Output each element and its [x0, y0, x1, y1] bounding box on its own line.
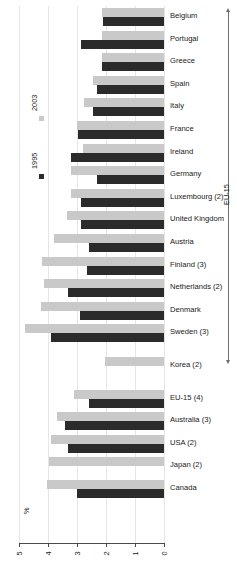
x-axis-line [19, 543, 165, 544]
bar-1995 [87, 266, 164, 275]
legend-label-2003: 2003 [30, 95, 39, 111]
category-label: Italy [170, 101, 184, 110]
bar-row: Canada [0, 480, 237, 503]
bar-row: Korea (2) [0, 357, 237, 380]
bar-2003 [49, 457, 164, 466]
category-label: Germany [170, 169, 201, 178]
bar-2003 [44, 279, 164, 288]
legend-item-1995: 1995 [30, 136, 54, 182]
bar-1995 [103, 17, 164, 26]
bar-1995 [97, 85, 164, 94]
bar-row: USA (2) [0, 435, 237, 458]
category-label: Spain [170, 79, 189, 88]
bar-1995 [81, 40, 164, 49]
category-label: Finland (3) [170, 260, 206, 269]
bar-1995 [68, 444, 164, 453]
bar-1995 [71, 153, 164, 162]
bar-row: Japan (2) [0, 457, 237, 480]
bar-2003 [67, 211, 164, 220]
bar-2003 [42, 257, 164, 266]
chart-figure: BelgiumPortugalGreeceSpainItalyFranceIre… [0, 0, 237, 572]
bar-row: Australia (3) [0, 412, 237, 435]
eu15-bracket-arrow-bottom [226, 360, 230, 364]
legend-swatch-2003 [39, 116, 44, 121]
category-label: Austria [170, 237, 194, 246]
category-label: Korea (2) [170, 360, 202, 369]
category-label: Australia (3) [170, 415, 211, 424]
category-label: Netherlands (2) [170, 282, 222, 291]
bar-row: Portugal [0, 31, 237, 54]
bar-2003 [84, 98, 164, 107]
bar-2003 [71, 166, 164, 175]
category-label: USA (2) [170, 438, 197, 447]
legend-swatch-1995 [39, 174, 44, 179]
category-label: United Kingdom [170, 214, 224, 223]
bar-2003 [93, 76, 164, 85]
x-tick-label-0: 0 [160, 544, 169, 564]
bar-row: Greece [0, 53, 237, 76]
bar-1995 [97, 175, 164, 184]
bar-2003 [77, 121, 164, 130]
category-label: Luxembourg (2) [170, 192, 224, 201]
chart-legend: 2003 1995 [30, 78, 54, 188]
bar-1995 [80, 311, 164, 320]
bar-1995 [81, 198, 164, 207]
x-tick-label-2: 2 [102, 544, 111, 564]
category-label: Japan (2) [170, 460, 202, 469]
bar-1995 [81, 220, 164, 229]
bar-row: Luxembourg (2) [0, 189, 237, 212]
category-label: EU-15 (4) [170, 393, 203, 402]
bar-2003 [102, 31, 164, 40]
bar-1995 [51, 333, 164, 342]
bar-row: Austria [0, 234, 237, 257]
bar-2003 [57, 412, 164, 421]
bar-2003 [54, 234, 164, 243]
bar-row: EU-15 (4) [0, 390, 237, 413]
legend-item-2003: 2003 [30, 78, 54, 124]
bar-1995 [65, 421, 164, 430]
axis-unit-label: % [22, 507, 31, 514]
bar-row: Belgium [0, 8, 237, 31]
category-label: Denmark [170, 305, 201, 314]
bar-2003 [41, 302, 164, 311]
bar-2003 [47, 480, 164, 489]
eu15-bracket-arrow-top [226, 8, 230, 12]
x-tick-label-5: 5 [15, 544, 24, 564]
bar-2003 [25, 324, 164, 333]
category-label: Greece [170, 56, 195, 65]
bar-1995 [78, 130, 164, 139]
eu15-bracket-label: EU-15 [222, 184, 231, 205]
bar-row: Denmark [0, 302, 237, 325]
x-tick-label-3: 3 [73, 544, 82, 564]
plot-area: BelgiumPortugalGreeceSpainItalyFranceIre… [0, 0, 237, 572]
category-label: Ireland [170, 147, 193, 156]
bar-1995 [89, 399, 164, 408]
bar-row: Netherlands (2) [0, 279, 237, 302]
category-label: Belgium [170, 11, 197, 20]
bar-row: United Kingdom [0, 211, 237, 234]
bar-1995 [93, 107, 164, 116]
bar-1995 [77, 489, 164, 498]
bar-row: Sweden (3) [0, 324, 237, 347]
x-tick-label-1: 1 [131, 544, 140, 564]
category-label: France [170, 124, 194, 133]
category-label: Canada [170, 483, 197, 492]
bar-2003 [102, 53, 164, 62]
bar-2003 [83, 144, 164, 153]
bar-row: Finland (3) [0, 257, 237, 280]
category-label: Sweden (3) [170, 327, 209, 336]
x-tick-label-4: 4 [44, 544, 53, 564]
bar-2003 [74, 390, 164, 399]
bar-1995 [89, 243, 164, 252]
bar-2003 [102, 8, 164, 17]
legend-label-1995: 1995 [30, 153, 39, 169]
bar-2003 [71, 189, 164, 198]
bar-1995 [102, 62, 164, 71]
bar-1995 [68, 288, 164, 297]
bar-2003 [51, 435, 164, 444]
bar-2003 [105, 357, 164, 366]
category-label: Portugal [170, 34, 198, 43]
